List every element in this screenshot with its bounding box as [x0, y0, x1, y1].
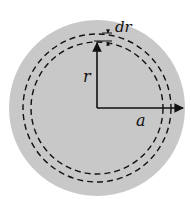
- label-dr: dr: [115, 18, 133, 36]
- label-a: a: [136, 111, 146, 130]
- disc-diagram: dr r a: [0, 0, 191, 199]
- label-r: r: [83, 67, 92, 86]
